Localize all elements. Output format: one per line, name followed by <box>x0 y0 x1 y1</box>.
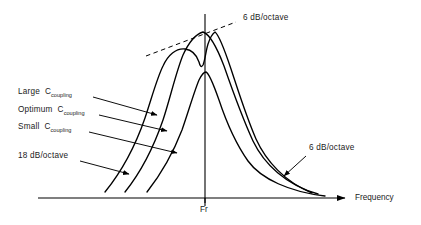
curve-large-coupling <box>105 32 312 193</box>
x-axis-label: Frequency <box>355 193 394 202</box>
callout-optimum-text: Optimum <box>18 105 53 114</box>
callout-large-sub: coupling <box>51 92 72 98</box>
callout-small-sub: coupling <box>51 127 72 133</box>
figure-container: Large Ccoupling Optimum Ccoupling Small … <box>0 0 421 225</box>
fr-sub: r <box>205 205 208 214</box>
curve-small-coupling <box>147 72 325 196</box>
leader-large-coupling <box>93 97 157 115</box>
annotation-6db-top: 6 dB/octave <box>243 13 288 22</box>
callout-leaders <box>80 97 177 174</box>
callout-small-text: Small <box>18 122 39 131</box>
annotation-6db-right: 6 dB/octave <box>309 143 354 152</box>
callout-label-optimum-coupling: Optimum Ccoupling <box>18 105 85 116</box>
leader-optimum-coupling <box>99 115 167 131</box>
callout-label-small-coupling: Small Ccoupling <box>18 122 71 133</box>
leader-6db-right <box>284 156 306 176</box>
leader-small-coupling <box>89 132 177 153</box>
curve-optimum-coupling <box>125 32 318 194</box>
callout-label-18db-octave: 18 dB/octave <box>18 151 68 160</box>
callout-18db-text: 18 dB/octave <box>18 151 68 160</box>
callout-optimum-sub: coupling <box>64 110 85 116</box>
resonance-frequency-label: Fr <box>200 205 208 214</box>
callout-label-large-coupling: Large Ccoupling <box>18 87 72 98</box>
callout-large-text: Large <box>18 87 40 96</box>
